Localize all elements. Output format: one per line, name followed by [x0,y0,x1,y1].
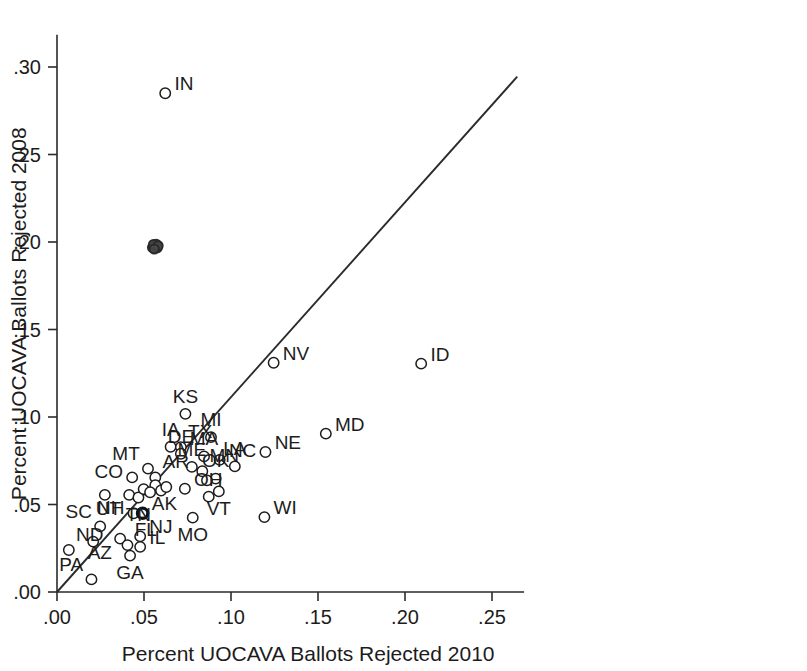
overplotted-marker [150,244,159,253]
point-label-in: IN [174,73,193,94]
data-point-fl [122,540,132,550]
point-label-nh: NH [97,497,124,518]
x-tick-label: .10 [217,606,245,628]
y-axis-title: Percent UOCAVA Ballots Rejected 2008 [7,127,30,500]
data-point-id [416,358,426,368]
point-label-mo: MO [177,524,208,545]
point-label-il: IL [149,527,165,548]
plot-canvas: .00.05.10.15.20.25.00.05.10.15.20.25.30 … [0,0,807,671]
y-tick-label: .30 [13,56,41,78]
data-point-ne [260,447,270,457]
data-point-mo [188,512,198,522]
data-point-pa [86,574,96,584]
overplotted-marker-cluster [148,240,163,254]
point-label-nv: NV [283,343,310,364]
data-point-md [321,428,331,438]
point-label-ks: KS [173,386,198,407]
data-point-nv [268,358,278,368]
point-label-az: AZ [88,542,113,563]
point-label-wi: WI [274,497,297,518]
x-tick-label: .15 [304,606,332,628]
point-labels-group: INIDNVMDKSMINEIATXDEMANCLAMTMEMNOKCOAROH… [59,73,449,583]
data-point-oh [180,484,190,494]
data-point-mt [143,463,153,473]
scatter-plot-figure: .00.05.10.15.20.25.00.05.10.15.20.25.30 … [0,0,807,671]
axis-titles-group: Percent UOCAVA Ballots Rejected 2010Perc… [7,127,495,665]
point-label-ne: NE [275,432,301,453]
x-tick-label: .00 [43,606,71,628]
data-point-il [135,542,145,552]
data-point-co [127,472,137,482]
point-label-co: CO [94,461,123,482]
data-point-ga [125,550,135,560]
point-label-id: ID [430,344,449,365]
point-label-ak: AK [152,493,178,514]
point-label-ga: GA [116,562,144,583]
x-tick-label: .20 [391,606,419,628]
point-label-md: MD [335,414,365,435]
point-label-vt: VT [207,498,232,519]
x-axis-title: Percent UOCAVA Ballots Rejected 2010 [122,642,495,665]
point-label-pa: PA [59,554,83,575]
point-label-sc: SC [66,501,92,522]
y-tick-label: .00 [13,581,41,603]
x-tick-label: .25 [478,606,506,628]
point-label-ar: AR [163,451,189,472]
data-point-wi [259,512,269,522]
x-tick-label: .05 [130,606,158,628]
data-point-in [160,88,170,98]
data-point [161,482,171,492]
data-point-ks [180,409,190,419]
point-label-oh: OH [194,469,223,490]
